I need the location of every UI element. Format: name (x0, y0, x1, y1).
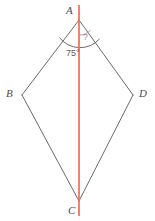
vertex-label-c: C (68, 205, 75, 216)
vertex-label-d: D (139, 88, 147, 99)
angle-label-unknown: ? (83, 33, 88, 42)
diagram-canvas (0, 0, 155, 221)
geometry-figure: A B C D 75° ? (0, 0, 155, 221)
edge-CD (79, 95, 133, 201)
angle-label-known: 75° (66, 49, 80, 58)
edge-BC (22, 95, 79, 201)
vertex-label-b: B (6, 88, 13, 99)
vertex-label-a: A (66, 5, 73, 16)
